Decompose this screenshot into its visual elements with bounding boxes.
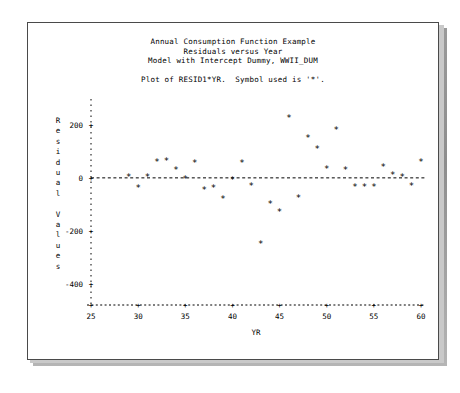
y-axis-title-char: e xyxy=(56,126,61,135)
y-tick-labels: 2000-200-400 xyxy=(65,121,84,289)
data-point: * xyxy=(286,113,291,123)
y-axis-title-char: d xyxy=(56,158,61,167)
y-axis-title-char: a xyxy=(56,220,61,229)
x-tick-mark: + xyxy=(277,301,282,310)
data-point: * xyxy=(362,182,367,192)
x-tick-mark: + xyxy=(183,301,188,310)
data-point: * xyxy=(173,165,178,175)
y-axis-title-char: e xyxy=(56,251,61,260)
x-tick-labels: 2530354045505560 xyxy=(86,312,426,321)
x-tick-label: 35 xyxy=(181,312,190,321)
data-point: * xyxy=(305,133,310,143)
y-axis-title-char: V xyxy=(56,210,61,219)
data-point: * xyxy=(220,194,225,204)
x-tick-label: 50 xyxy=(322,312,332,321)
data-point: * xyxy=(418,157,423,167)
data-point-layer: ******************************** xyxy=(126,113,424,249)
data-point: * xyxy=(164,156,169,166)
y-tick-mark: + xyxy=(89,121,94,130)
x-tick-label: 25 xyxy=(86,312,95,321)
y-axis-title-char: a xyxy=(56,178,61,187)
y-axis-title-char: u xyxy=(56,241,61,250)
x-tick-label: 40 xyxy=(228,312,238,321)
y-tick-mark: + xyxy=(89,280,94,289)
x-tick-label: 60 xyxy=(416,312,426,321)
data-point: * xyxy=(399,172,404,182)
y-axis-title-char: R xyxy=(56,116,61,125)
data-point: * xyxy=(211,183,216,193)
x-tick-label: 45 xyxy=(275,312,284,321)
data-point: * xyxy=(126,172,131,182)
data-point: * xyxy=(381,162,386,172)
data-point: * xyxy=(201,185,206,195)
x-tick-label: 55 xyxy=(369,312,378,321)
data-point: * xyxy=(183,174,188,184)
data-point: * xyxy=(324,164,329,174)
x-tick-mark: + xyxy=(419,301,424,310)
data-point: * xyxy=(371,182,376,192)
data-point: * xyxy=(409,181,414,191)
data-point: * xyxy=(352,182,357,192)
data-point: * xyxy=(315,144,320,154)
data-point: * xyxy=(277,207,282,217)
x-tick-mark: + xyxy=(89,301,94,310)
data-point: * xyxy=(145,172,150,182)
scatter-plot: 2000-200-400 2530354045505560 ResidualVa… xyxy=(28,23,439,360)
x-tick-label: 30 xyxy=(134,312,144,321)
data-point: * xyxy=(343,165,348,175)
data-point: * xyxy=(249,181,254,191)
y-tick-label: -400 xyxy=(65,280,84,289)
screenshot-viewport: Annual Consumption Function Example Resi… xyxy=(0,0,460,393)
y-axis-title-char: l xyxy=(56,230,61,239)
output-window: Annual Consumption Function Example Resi… xyxy=(27,22,439,360)
x-tick-mark: + xyxy=(230,301,235,310)
data-point: * xyxy=(135,183,140,193)
data-point: * xyxy=(239,158,244,168)
data-point: * xyxy=(258,239,263,249)
y-tick-label: 200 xyxy=(69,121,83,130)
data-point: * xyxy=(192,158,197,168)
y-axis-title-char: s xyxy=(56,137,61,146)
y-tick-mark: + xyxy=(89,174,94,183)
x-axis-title: YR xyxy=(251,328,261,337)
data-point: * xyxy=(154,157,159,167)
y-tick-label: 0 xyxy=(78,174,83,183)
data-point: * xyxy=(267,199,272,209)
data-point: * xyxy=(390,170,395,180)
y-tick-mark: + xyxy=(89,227,94,236)
data-point: * xyxy=(333,125,338,135)
y-axis-title-char: i xyxy=(56,147,61,156)
data-point: * xyxy=(296,193,301,203)
y-axis-title-char: l xyxy=(56,189,61,198)
x-tick-mark: + xyxy=(324,301,329,310)
y-tick-label: -200 xyxy=(65,227,84,236)
x-tick-mark: + xyxy=(372,301,377,310)
x-tick-mark: + xyxy=(136,301,141,310)
y-axis-title-char: u xyxy=(56,168,61,177)
y-axis-title: ResidualValues xyxy=(56,116,61,271)
plot-canvas: 2000-200-400 2530354045505560 ResidualVa… xyxy=(28,23,439,360)
y-axis-title-char: s xyxy=(56,262,61,271)
axis-decoration-layer: ++++++++++++ xyxy=(87,99,425,310)
data-point: * xyxy=(230,175,235,185)
